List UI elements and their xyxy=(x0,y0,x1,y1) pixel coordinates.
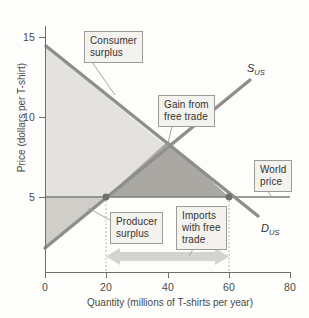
x-axis-title: Quantity (millions of T-shirts per year) xyxy=(45,297,295,308)
marker-demand-at-world-price xyxy=(226,194,233,201)
callout-world-price: World price xyxy=(254,160,292,192)
imports-span-arrow xyxy=(106,248,229,265)
demand-curve-label-sub: US xyxy=(269,228,279,237)
x-tick-20 xyxy=(106,272,107,278)
demand-curve-label-main: D xyxy=(261,222,269,234)
x-tick-40 xyxy=(168,272,169,278)
callout-consumer-surplus: Consumer surplus xyxy=(84,31,143,63)
supply-curve-label-sub: US xyxy=(254,68,264,77)
x-tick-label-60: 60 xyxy=(214,281,244,293)
callout-imports-with-free-trade: Imports with free trade xyxy=(176,206,227,250)
x-tick-label-0: 0 xyxy=(30,281,60,293)
y-axis xyxy=(45,26,46,273)
callout-producer-surplus: Producer surplus xyxy=(110,212,163,244)
y-tick-5 xyxy=(39,197,45,198)
callout-gain-from-free-trade: Gain from free trade xyxy=(158,95,215,127)
supply-curve-label: SUS xyxy=(247,62,265,77)
leader-producer-surplus xyxy=(88,208,110,220)
marker-supply-at-world-price xyxy=(103,194,110,201)
x-tick-60 xyxy=(229,272,230,278)
x-tick-label-80: 80 xyxy=(275,281,305,293)
x-tick-0 xyxy=(45,272,46,278)
y-axis-title: Price (dollars per T-shirt) xyxy=(16,33,27,203)
y-tick-10 xyxy=(39,117,45,118)
y-tick-15 xyxy=(39,37,45,38)
x-tick-label-40: 40 xyxy=(153,281,183,293)
x-tick-80 xyxy=(290,272,291,278)
x-tick-label-20: 20 xyxy=(91,281,121,293)
chart-figure: 15 10 5 0 20 40 60 80 Price (dollars per… xyxy=(0,0,309,318)
demand-curve-label: DUS xyxy=(261,222,279,237)
